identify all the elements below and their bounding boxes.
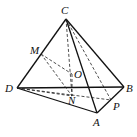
dashed-edge-MN	[41, 54, 72, 96]
dashed-edge-DP	[17, 88, 111, 100]
label-M: M	[29, 44, 40, 56]
dashed-edge-MO	[41, 54, 72, 74]
label-D: D	[4, 82, 13, 94]
label-O: O	[74, 68, 82, 80]
solid-edge-AB	[97, 87, 124, 113]
dashed-edge-DN	[17, 88, 72, 96]
dashed-edge-CN	[66, 19, 72, 96]
label-A: A	[92, 116, 100, 128]
label-P: P	[112, 100, 120, 112]
solid-edge-DA	[17, 88, 97, 113]
label-N: N	[67, 94, 76, 106]
solid-edge-DB	[17, 87, 124, 88]
label-B: B	[126, 82, 133, 94]
solid-edge-CD	[17, 19, 66, 88]
label-C: C	[61, 4, 69, 16]
tetrahedron-diagram: C D B A M O N P	[0, 0, 137, 137]
